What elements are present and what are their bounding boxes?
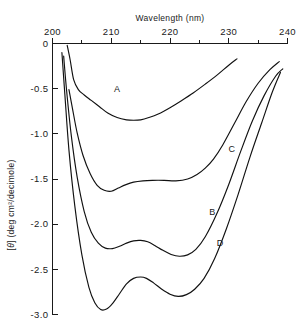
y-tick-label: -1.0 (31, 128, 49, 139)
y-tick-label: -2.0 (31, 218, 49, 229)
x-tick-label: 200 (44, 26, 61, 37)
data-curves-group (62, 45, 283, 310)
y-axis-title: [θ] (deg cm²/decimole) (6, 159, 16, 250)
y-axis-ticks (53, 44, 58, 315)
y-tick-label: -2.5 (31, 264, 49, 275)
axes-group (52, 38, 288, 315)
y-tick-label: -0.5 (31, 83, 49, 94)
cd-spectrum-figure: 200210220230240 0-0.5-1.0-1.5-2.0-2.5-3.… (0, 0, 307, 334)
curve-c (69, 62, 279, 192)
curve-label-b: B (209, 207, 215, 217)
x-tick-label: 240 (279, 26, 296, 37)
chart-canvas: 200210220230240 0-0.5-1.0-1.5-2.0-2.5-3.… (0, 0, 307, 334)
y-tick-label: 0 (43, 38, 49, 49)
x-axis-ticks (53, 38, 288, 44)
x-tick-label: 210 (103, 26, 120, 37)
y-tick-label: -1.5 (31, 173, 49, 184)
x-tick-label: 230 (220, 26, 237, 37)
x-axis-tick-labels: 200210220230240 (44, 26, 296, 37)
curve-a (67, 45, 237, 120)
curve-labels-group: ACBD (114, 84, 235, 248)
curve-label-d: D (217, 238, 224, 248)
curve-label-c: C (228, 144, 235, 154)
y-tick-label: -3.0 (31, 309, 49, 320)
y-axis-tick-labels: 0-0.5-1.0-1.5-2.0-2.5-3.0 (31, 38, 49, 320)
x-axis-title: Wavelength (nm) (136, 13, 205, 23)
curve-label-a: A (114, 84, 120, 94)
x-tick-label: 220 (161, 26, 178, 37)
